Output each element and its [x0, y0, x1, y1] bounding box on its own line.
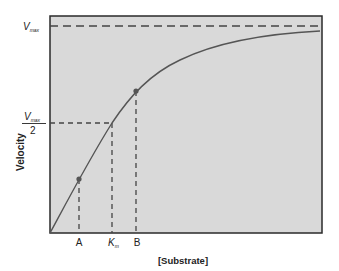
chart: Vmax Vmax 2 Velocity A Km B [Substrate] — [0, 0, 339, 271]
x-axis-title: [Substrate] — [158, 255, 208, 266]
point-b — [133, 88, 138, 93]
tick-b: B — [134, 237, 141, 248]
tick-km: Km — [108, 237, 119, 249]
y-axis-title: Velocity — [15, 133, 26, 171]
tick-a: A — [76, 237, 83, 248]
point-a — [76, 176, 81, 181]
plot-area — [50, 16, 322, 233]
half-vmax-denominator: 2 — [30, 125, 36, 136]
vmax-label: Vmax — [23, 21, 40, 33]
half-vmax-numerator: Vmax — [24, 111, 41, 123]
